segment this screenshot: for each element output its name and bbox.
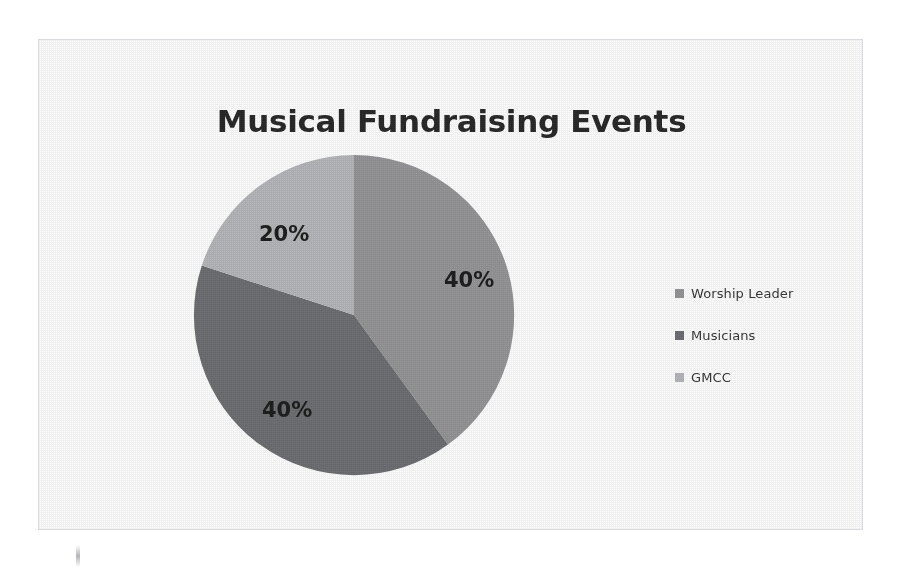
pie-slice-label-musicians: 40% [262, 398, 312, 422]
pie-slice-label-worship-leader: 40% [444, 268, 494, 292]
legend-label-worship-leader: Worship Leader [691, 286, 793, 301]
legend-item-gmcc[interactable]: GMCC [675, 356, 855, 398]
chart-legend: Worship Leader Musicians GMCC [675, 272, 855, 398]
legend-square-marker-icon [675, 373, 684, 382]
legend-item-musicians[interactable]: Musicians [675, 314, 855, 356]
legend-square-marker-icon [675, 289, 684, 298]
legend-square-marker-icon [675, 331, 684, 340]
chart-frame: Musical Fundraising Events 40% 40% 20% W… [38, 39, 863, 530]
legend-item-worship-leader[interactable]: Worship Leader [675, 272, 855, 314]
pie-slice-label-gmcc: 20% [259, 222, 309, 246]
legend-label-gmcc: GMCC [691, 370, 731, 385]
legend-label-musicians: Musicians [691, 328, 755, 343]
pie-chart-graphic [189, 150, 519, 480]
scan-artifact-smudge [76, 545, 80, 567]
